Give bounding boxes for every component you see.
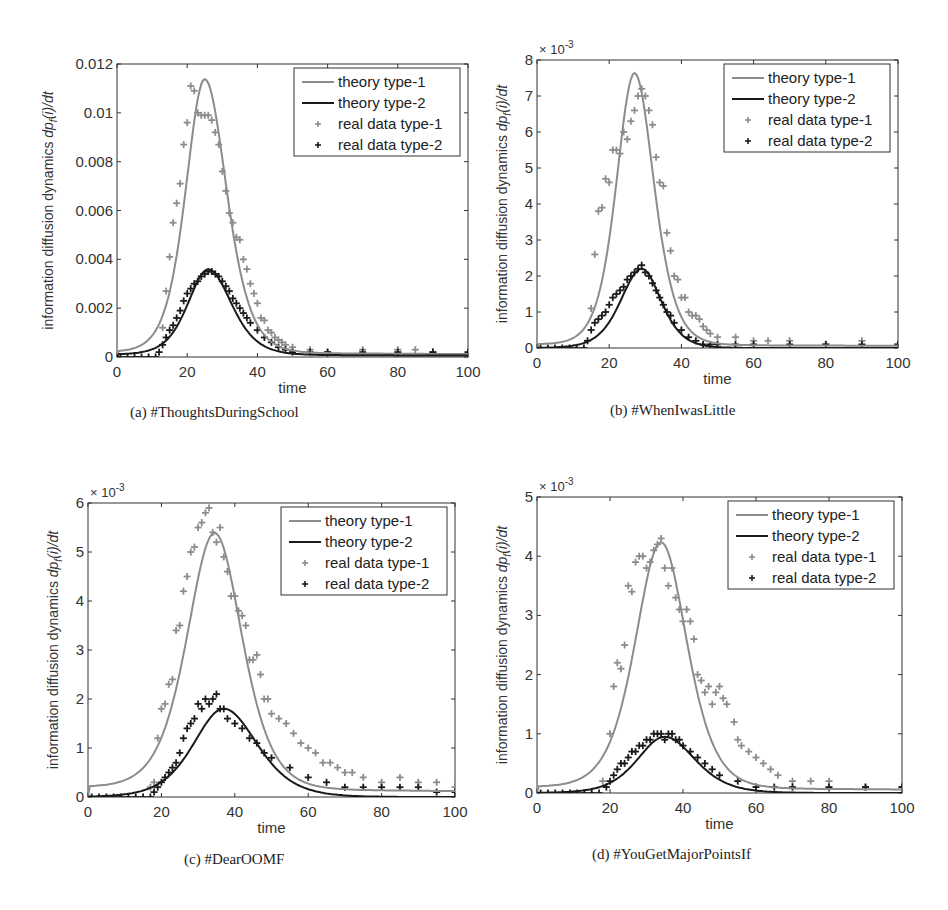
y-tick-label: 2 [525, 666, 533, 683]
plot-d: 020406080100012345× 10-3timeinformation … [0, 0, 948, 910]
legend-label: real data type-1 [772, 548, 876, 565]
caption-d: (d) #YouGetMajorPointsIf [592, 846, 751, 863]
x-tick-label: 40 [675, 799, 692, 816]
y-exponent-label: × 10-3 [539, 476, 574, 494]
legend-label: theory type-2 [772, 527, 860, 544]
x-tick-label: 60 [748, 799, 765, 816]
x-axis-label: time [705, 815, 733, 832]
legend: theory type-1theory type-2real data type… [728, 501, 894, 589]
chart-panel-d: 020406080100012345× 10-3timeinformation … [0, 0, 948, 910]
y-axis-label: information diffusion dynamics dpf(i)/dt [494, 525, 513, 764]
x-tick-label: 20 [602, 799, 619, 816]
x-tick-label: 100 [889, 799, 914, 816]
y-tick-label: 5 [525, 488, 533, 505]
y-tick-label: 3 [525, 606, 533, 623]
truncated-figure-caption [330, 900, 930, 910]
legend-label: theory type-1 [772, 506, 860, 523]
y-tick-label: 0 [525, 784, 533, 801]
y-tick-label: 1 [525, 725, 533, 742]
legend-label: real data type-2 [772, 569, 876, 586]
y-tick-label: 4 [525, 547, 533, 564]
x-tick-label: 80 [821, 799, 838, 816]
x-tick-label: 0 [533, 799, 541, 816]
